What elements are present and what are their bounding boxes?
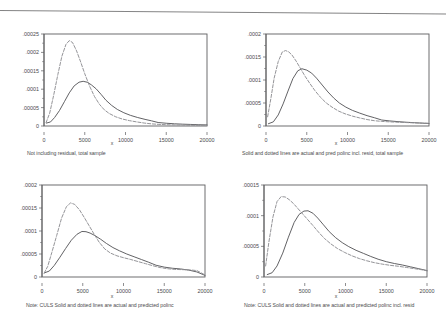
plot-frame bbox=[44, 34, 207, 126]
y-axis-tick-label: .0002 bbox=[26, 49, 40, 55]
y-axis-tick-label: .0001 bbox=[26, 86, 40, 92]
series-line-dashed bbox=[268, 51, 429, 124]
y-axis-tick-label: .00015 bbox=[245, 54, 262, 60]
x-axis-title-top-left: x bbox=[0, 140, 224, 146]
series-line-solid bbox=[46, 81, 207, 125]
chart-canvas-bottom-left: 0.00005.0001.00015.000205000100001500020… bbox=[0, 167, 224, 292]
chart-caption-bottom-right: Note: CULS Solid and dotted lines are ac… bbox=[244, 302, 414, 308]
y-axis-tick-label: 0 bbox=[36, 123, 39, 129]
chart-caption-top-left: Not including residual, total sample bbox=[27, 150, 106, 156]
series-line-dashed bbox=[46, 41, 207, 126]
chart-canvas-top-left: 0.00005.0001.00015.0002.0002505000100001… bbox=[0, 14, 224, 139]
y-axis-tick-label: .00015 bbox=[21, 205, 38, 211]
y-axis-tick-label: .00005 bbox=[21, 251, 38, 257]
y-axis-tick-label: 0 bbox=[34, 274, 37, 280]
y-axis-tick-label: 0 bbox=[256, 274, 259, 280]
chart-panel-top-left: 0.00005.0001.00015.0002.0002505000100001… bbox=[0, 14, 224, 167]
chart-grid: 0.00005.0001.00015.0002.0002505000100001… bbox=[0, 14, 448, 320]
y-axis-tick-label: 0 bbox=[258, 123, 261, 129]
series-line-dashed bbox=[44, 203, 205, 275]
chart-canvas-bottom-right: 0.00005.0001.0001505000100001500020000 bbox=[224, 167, 448, 292]
y-axis-tick-label: .00005 bbox=[23, 105, 40, 111]
y-axis-tick-label: .0001 bbox=[248, 77, 262, 83]
figure-page: 0.00005.0001.00015.0002.0002505000100001… bbox=[0, 0, 448, 320]
y-axis-tick-label: .00015 bbox=[23, 68, 40, 74]
y-axis-tick-label: .00025 bbox=[23, 31, 40, 37]
y-axis-tick-label: .00015 bbox=[243, 182, 260, 188]
chart-caption-top-right: Solid and dotted lines are actual and pr… bbox=[242, 150, 403, 156]
chart-caption-bottom-left: Note: CULS Solid and dotted lines are ac… bbox=[26, 302, 174, 308]
y-axis-tick-label: .0002 bbox=[24, 182, 38, 188]
chart-panel-bottom-right: 0.00005.0001.0001505000100001500020000 x… bbox=[224, 167, 448, 320]
y-axis-tick-label: .00005 bbox=[243, 243, 260, 249]
series-line-solid bbox=[267, 211, 427, 275]
x-axis-title-top-right: x bbox=[224, 140, 448, 146]
chart-panel-bottom-left: 0.00005.0001.00015.000205000100001500020… bbox=[0, 167, 224, 320]
x-axis-title-bottom-left: x bbox=[0, 293, 224, 299]
plot-frame bbox=[42, 185, 205, 277]
y-axis-tick-label: .0002 bbox=[248, 31, 262, 37]
x-axis-title-bottom-right: x bbox=[224, 293, 448, 299]
series-line-solid bbox=[44, 231, 205, 275]
chart-panel-top-right: 0.00005.0001.00015.000205000100001500020… bbox=[224, 14, 448, 167]
y-axis-tick-label: .00005 bbox=[245, 100, 262, 106]
y-axis-tick-label: .0001 bbox=[24, 228, 38, 234]
plot-frame bbox=[266, 34, 429, 126]
chart-canvas-top-right: 0.00005.0001.00015.000205000100001500020… bbox=[224, 14, 448, 139]
y-axis-tick-label: .0001 bbox=[246, 213, 260, 219]
